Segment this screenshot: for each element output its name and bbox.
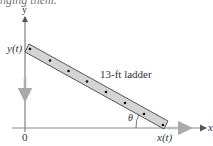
ladder-label: 13-ft ladder — [100, 69, 152, 80]
y-axis-label: y — [22, 5, 27, 15]
top-point-label: y(t) — [7, 43, 22, 54]
origin-label: 0 — [22, 132, 28, 143]
ladder — [25, 44, 168, 129]
bottom-point-label: x(t) — [157, 132, 172, 143]
x-axis-label: x — [208, 122, 213, 133]
angle-arc — [136, 114, 139, 128]
angle-label: θ — [128, 113, 133, 123]
